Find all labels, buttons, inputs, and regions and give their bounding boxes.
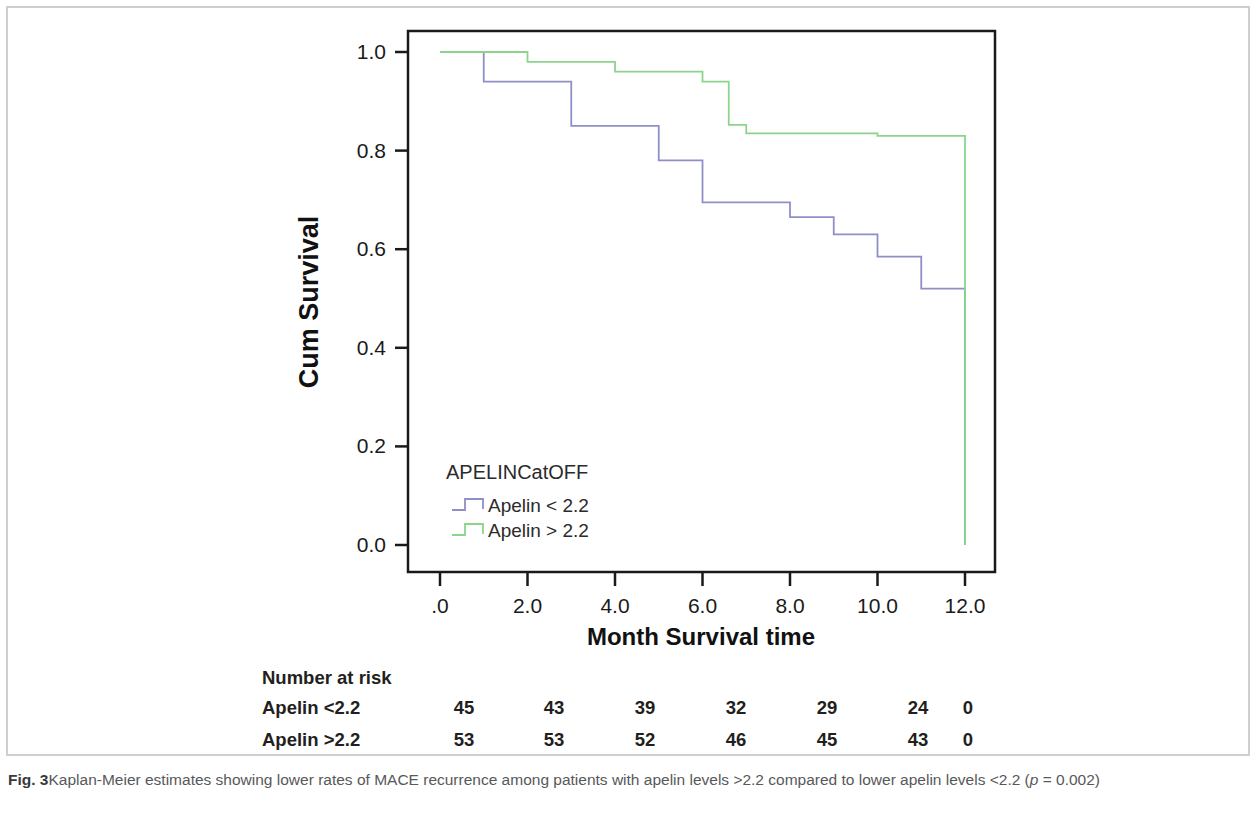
- x-tick-label: 6.0: [688, 594, 717, 617]
- caption-tail: = 0.002): [1038, 771, 1100, 788]
- legend-label-2: Apelin > 2.2: [488, 520, 589, 541]
- y-axis-title: Cum Survival: [294, 216, 324, 389]
- y-tick-label: 0.8: [357, 139, 386, 162]
- legend-title: APELINCatOFF: [446, 461, 588, 483]
- risk-cell: 53: [544, 729, 565, 750]
- risk-table-header: Number at risk: [262, 667, 392, 688]
- legend-label-1: Apelin < 2.2: [488, 495, 589, 516]
- risk-row-label: Apelin >2.2: [262, 729, 360, 750]
- x-tick-label: 2.0: [513, 594, 542, 617]
- figure-caption: Fig. 3Kaplan-Meier estimates showing low…: [8, 768, 1248, 791]
- y-tick-label: 0.2: [357, 434, 386, 457]
- risk-cell: 43: [544, 697, 565, 718]
- chart-legend: APELINCatOFF Apelin < 2.2Apelin > 2.2: [446, 461, 589, 541]
- risk-cell: 53: [454, 729, 475, 750]
- plot-frame: [408, 31, 995, 572]
- x-tick-label: 4.0: [600, 594, 629, 617]
- kaplan-meier-plot: 0.00.20.40.60.81.0 .02.04.06.08.010.012.…: [0, 0, 1256, 760]
- figure-label: Fig. 3: [8, 771, 48, 788]
- caption-body: Kaplan-Meier estimates showing lower rat…: [48, 771, 1029, 788]
- x-tick-label: 8.0: [775, 594, 804, 617]
- y-tick-label: 0.0: [357, 533, 386, 556]
- y-axis-ticks: 0.00.20.40.60.81.0: [357, 40, 408, 556]
- y-tick-label: 0.4: [357, 336, 387, 359]
- risk-cell: 43: [908, 729, 929, 750]
- risk-cell: 52: [635, 729, 656, 750]
- legend-swatch-2: [452, 524, 483, 535]
- y-tick-label: 1.0: [357, 40, 386, 63]
- number-at-risk-table: Number at risk Apelin <2.24543393229240A…: [262, 667, 973, 750]
- risk-cell: 45: [817, 729, 838, 750]
- risk-cell: 46: [726, 729, 747, 750]
- risk-cell: 24: [908, 697, 929, 718]
- risk-cell: 0: [963, 729, 973, 750]
- x-axis-title: Month Survival time: [587, 623, 815, 650]
- risk-cell: 45: [454, 697, 475, 718]
- x-tick-label: .0: [431, 594, 449, 617]
- y-tick-label: 0.6: [357, 237, 386, 260]
- x-axis-ticks: .02.04.06.08.010.012.0: [431, 572, 985, 617]
- risk-row-label: Apelin <2.2: [262, 697, 360, 718]
- risk-cell: 32: [726, 697, 747, 718]
- risk-cell: 29: [817, 697, 838, 718]
- x-tick-label: 10.0: [857, 594, 898, 617]
- figure-container: 0.00.20.40.60.81.0 .02.04.06.08.010.012.…: [0, 0, 1256, 823]
- legend-swatch-1: [452, 499, 483, 510]
- risk-cell: 0: [963, 697, 973, 718]
- x-tick-label: 12.0: [945, 594, 986, 617]
- risk-cell: 39: [635, 697, 656, 718]
